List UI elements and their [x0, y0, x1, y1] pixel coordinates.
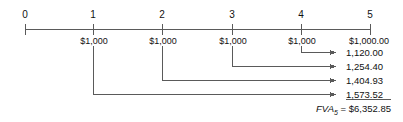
compounding-arrows-group: [94, 46, 337, 95]
period-label-3: 3: [229, 10, 235, 20]
total-future-value-annuity: FVA5 = $6,352.85: [266, 104, 391, 116]
period-label-0: 0: [22, 10, 28, 20]
fva-symbol: FVA: [316, 103, 334, 114]
period-label-1: 1: [90, 10, 96, 20]
future-value-from-period-1: 1,573.52: [346, 90, 383, 100]
compound-arrow-period-2: [163, 46, 337, 81]
compound-arrow-period-3: [233, 46, 337, 67]
cash-flow-label-period-1: $1,000: [80, 37, 108, 46]
cash-flow-label-period-5: $1,000.00: [349, 37, 389, 46]
future-value-from-period-3: 1,254.40: [346, 62, 383, 72]
fva-subscript: 5: [334, 109, 338, 116]
future-value-from-period-2: 1,404.93: [346, 76, 383, 86]
future-value-from-period-4: 1,120.00: [346, 48, 383, 58]
compound-arrow-period-4: [302, 46, 337, 53]
total-amount: $6,352.85: [349, 103, 391, 114]
cash-flow-label-period-3: $1,000: [219, 37, 247, 46]
future-value-annuity-timeline-diagram: 0 1 2 3 4 5 $1,000 $1,000 $1,000 $1,000 …: [0, 0, 403, 122]
equals-sign: =: [341, 103, 347, 114]
compound-arrow-period-1: [94, 46, 337, 95]
period-label-2: 2: [159, 10, 165, 20]
period-label-4: 4: [298, 10, 304, 20]
cash-flow-label-period-4: $1,000: [288, 37, 316, 46]
cash-flow-label-period-2: $1,000: [149, 37, 177, 46]
period-label-5: 5: [367, 10, 373, 20]
